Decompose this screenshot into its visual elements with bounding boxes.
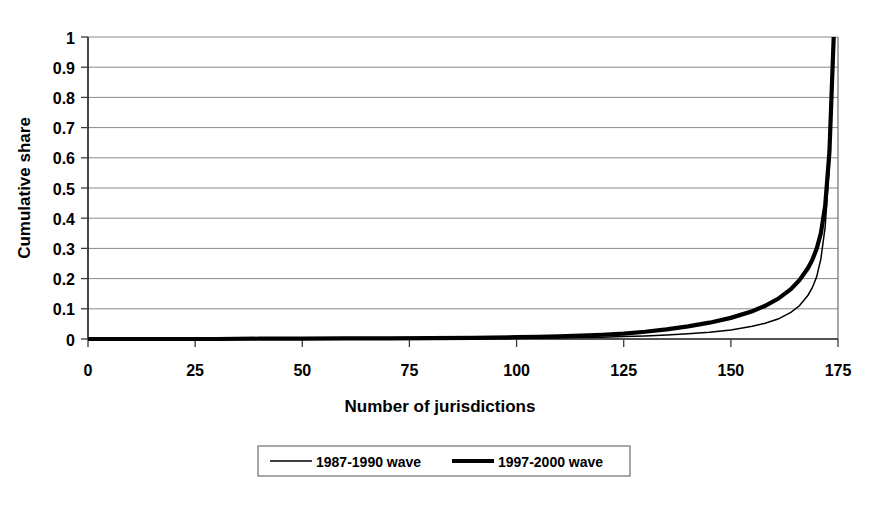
y-tick-label: 1 [66,30,75,47]
x-tick-label: 25 [186,362,204,379]
x-tick-labels: 0 25 50 75 100 125 150 175 [84,362,852,379]
y-tick-label: 0.7 [53,120,75,137]
x-tick-label: 50 [293,362,311,379]
chart-legend: 1987-1990 wave 1997-2000 wave [258,446,630,476]
x-tick-label: 125 [610,362,637,379]
chart-figure: 1 0.9 0.8 0.7 0.6 0.5 0.4 0.3 0.2 0.1 0 … [0,0,885,514]
legend-label-1997-2000: 1997-2000 wave [498,454,603,470]
y-axis-title: Cumulative share [15,117,34,259]
y-tickmarks [81,37,88,339]
x-tick-label: 100 [503,362,530,379]
x-tick-label: 75 [401,362,419,379]
y-tick-label: 0.4 [53,211,75,228]
y-tick-label: 0.3 [53,241,75,258]
y-tick-label: 0.8 [53,90,75,107]
y-tick-label: 0 [66,332,75,349]
legend-label-1987-1990: 1987-1990 wave [316,454,421,470]
cumulative-share-line-chart: 1 0.9 0.8 0.7 0.6 0.5 0.4 0.3 0.2 0.1 0 … [0,0,885,514]
y-tick-label: 0.5 [53,181,75,198]
x-axis-title: Number of jurisdictions [345,397,536,416]
y-tick-label: 0.1 [53,301,75,318]
y-gridlines [88,37,838,309]
x-tick-label: 175 [825,362,852,379]
x-tick-label: 0 [84,362,93,379]
y-tick-labels: 1 0.9 0.8 0.7 0.6 0.5 0.4 0.3 0.2 0.1 0 [53,30,75,349]
y-tick-label: 0.6 [53,150,75,167]
y-tick-label: 0.2 [53,271,75,288]
x-tick-label: 150 [718,362,745,379]
y-tick-label: 0.9 [53,60,75,77]
